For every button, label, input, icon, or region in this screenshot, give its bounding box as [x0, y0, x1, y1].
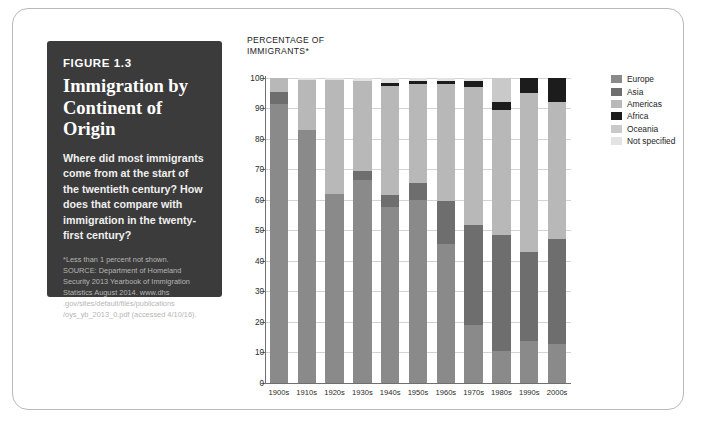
legend-item-label: Not specified: [627, 136, 675, 146]
legend-item-oceania[interactable]: Oceania: [611, 123, 701, 135]
bar-segment-europe: [270, 104, 288, 383]
bar-segment-asia: [464, 225, 482, 325]
bar-segment-europe: [298, 130, 316, 383]
bar-1960s[interactable]: [437, 78, 455, 383]
source-line: Security 2013 Yearbook of Immigration: [63, 277, 207, 288]
y-axis-tick-label: 40: [240, 256, 264, 265]
legend-swatch-icon: [611, 100, 622, 108]
bar-1970s[interactable]: [464, 78, 482, 383]
legend-item-label: Americas: [627, 99, 662, 109]
bar-segment-europe: [381, 207, 399, 382]
bar-segment-americas: [353, 81, 371, 171]
bar-segment-americas: [298, 80, 316, 130]
legend-item-europe[interactable]: Europe: [611, 73, 701, 85]
bar-segment-americas: [409, 84, 427, 183]
y-axis-tick-label: 10: [240, 348, 264, 357]
bar-1940s[interactable]: [381, 78, 399, 383]
y-axis-tick-label: 60: [240, 195, 264, 204]
bar-segment-europe: [409, 200, 427, 383]
bar-segment-americas: [270, 78, 288, 92]
bar-segment-americas: [464, 87, 482, 225]
y-axis-tick-label: 30: [240, 287, 264, 296]
x-axis-tick-label: 1900s: [269, 388, 290, 397]
legend-item-label: Europe: [627, 74, 654, 84]
y-axis-tick-label: 100: [240, 74, 264, 83]
source-line: /oys_yb_2013_0.pdf (accessed 4/10/16).: [63, 310, 207, 321]
bar-1920s[interactable]: [325, 78, 343, 383]
bar-segment-europe: [492, 351, 510, 383]
x-axis-tick-label: 1990s: [519, 388, 540, 397]
axis-title-line: PERCENTAGE OF: [247, 35, 324, 46]
bar-segment-asia: [270, 92, 288, 104]
x-axis-tick-label: 1910s: [296, 388, 317, 397]
x-axis-tick-label: 1970s: [463, 388, 484, 397]
bar-segment-not-specified: [353, 78, 371, 81]
bar-segment-africa: [520, 78, 538, 93]
x-axis-tick-label: 1930s: [352, 388, 373, 397]
bar-segment-europe: [353, 180, 371, 382]
bar-1900s[interactable]: [270, 78, 288, 383]
bar-1910s[interactable]: [298, 78, 316, 383]
bar-segment-europe: [548, 344, 566, 382]
bar-segment-americas: [381, 86, 399, 196]
bar-segment-americas: [492, 110, 510, 235]
bar-segment-americas: [325, 80, 343, 194]
source-line: *Less than 1 percent not shown.: [63, 255, 207, 266]
bar-segment-africa: [464, 81, 482, 87]
bar-segment-not-specified: [409, 78, 427, 81]
figure-frame: FIGURE 1.3 Immigration by Continent of O…: [12, 8, 684, 410]
figure-caption-panel: FIGURE 1.3 Immigration by Continent of O…: [47, 41, 222, 297]
legend-item-asia[interactable]: Asia: [611, 85, 701, 97]
x-axis-line: [265, 383, 571, 385]
bar-segment-africa: [381, 83, 399, 86]
chart-axis-title: PERCENTAGE OFIMMIGRANTS*: [247, 35, 324, 58]
chart-region: PERCENTAGE OFIMMIGRANTS* 010203040506070…: [241, 31, 681, 399]
bar-segment-asia: [520, 252, 538, 342]
bar-2000s[interactable]: [548, 78, 566, 383]
bar-segment-africa: [492, 102, 510, 110]
bar-1950s[interactable]: [409, 78, 427, 383]
x-axis-tick-label: 1960s: [435, 388, 456, 397]
bar-1930s[interactable]: [353, 78, 371, 383]
plot-area: 01020304050607080901001900s1910s1920s193…: [265, 76, 571, 384]
bar-segment-africa: [437, 81, 455, 84]
bar-1990s[interactable]: [520, 78, 538, 383]
source-line: .gov/sites/default/files/publications: [63, 299, 207, 310]
y-axis-tick-label: 80: [240, 134, 264, 143]
legend-swatch-icon: [611, 75, 622, 83]
bar-segment-oceania: [492, 78, 510, 102]
source-line: SOURCE: Department of Homeland: [63, 266, 207, 277]
legend-swatch-icon: [611, 137, 622, 145]
bar-segment-europe: [437, 244, 455, 383]
bar-segment-not-specified: [298, 78, 316, 80]
x-axis-tick-label: 1920s: [324, 388, 345, 397]
x-axis-tick-label: 1950s: [408, 388, 429, 397]
bar-segment-europe: [464, 325, 482, 382]
x-axis-tick-label: 1980s: [491, 388, 512, 397]
bar-segment-asia: [409, 183, 427, 200]
figure-number: FIGURE 1.3: [63, 57, 207, 69]
figure-description: Where did most immigrants come from at t…: [63, 151, 207, 243]
legend-item-label: Asia: [627, 87, 643, 97]
x-axis-tick-label: 1940s: [380, 388, 401, 397]
bar-segment-not-specified: [437, 78, 455, 81]
y-axis-tick-label: 50: [240, 226, 264, 235]
bar-segment-asia: [548, 239, 566, 344]
bar-segment-not-specified: [325, 78, 343, 80]
bar-segment-asia: [353, 171, 371, 180]
bar-segment-americas: [520, 93, 538, 251]
bar-segment-americas: [548, 102, 566, 239]
legend-item-not-specified[interactable]: Not specified: [611, 135, 701, 147]
bar-segment-asia: [381, 195, 399, 207]
bar-segment-africa: [409, 81, 427, 84]
bar-segment-europe: [520, 341, 538, 382]
legend-item-americas[interactable]: Americas: [611, 98, 701, 110]
figure-source-note: *Less than 1 percent not shown.SOURCE: D…: [63, 255, 207, 321]
source-line: Statistics August 2014. www.dhs: [63, 288, 207, 299]
legend-item-africa[interactable]: Africa: [611, 110, 701, 122]
chart-legend: EuropeAsiaAmericasAfricaOceaniaNot speci…: [611, 73, 701, 147]
bar-1980s[interactable]: [492, 78, 510, 383]
legend-swatch-icon: [611, 88, 622, 96]
bar-segment-americas: [437, 84, 455, 201]
bar-segment-not-specified: [381, 78, 399, 83]
